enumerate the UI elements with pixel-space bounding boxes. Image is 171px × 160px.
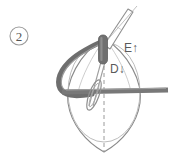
step-number-badge: 2 [10, 27, 28, 45]
annotation-label-e: E↑ [124, 41, 138, 55]
figure-container: 2 E↑ D↓ [0, 0, 171, 160]
annotation-label-d: D↓ [110, 62, 125, 76]
cannula-tube [99, 35, 108, 64]
guide-line-upper [104, 6, 137, 44]
step-number-label: 2 [16, 29, 23, 44]
surgical-step-illustration: 2 E↑ D↓ [0, 0, 171, 160]
